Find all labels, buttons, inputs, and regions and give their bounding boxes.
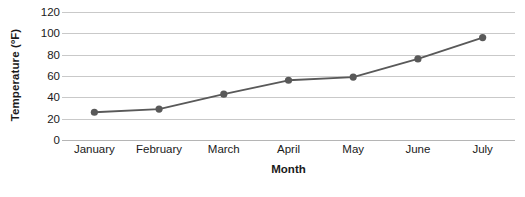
y-axis-tick-label: 20 (28, 113, 60, 125)
x-axis-tick-label: March (208, 143, 240, 155)
y-axis-title-text: Temperature (ºF) (9, 29, 21, 122)
y-axis-tick-label: 100 (28, 27, 60, 39)
data-point-marker (220, 91, 227, 98)
y-axis-tick-label: 80 (28, 49, 60, 61)
x-axis-tick-label: May (342, 143, 364, 155)
data-series (62, 12, 515, 140)
plot-area (62, 12, 515, 140)
x-axis-tick-label: July (472, 143, 492, 155)
x-axis-title: Month (62, 163, 515, 175)
y-axis-tick-label: 60 (28, 70, 60, 82)
y-axis-tick-labels: 020406080100120 (28, 0, 60, 150)
line-chart: Temperature (ºF) 020406080100120 January… (0, 0, 525, 197)
data-point-marker (414, 55, 421, 62)
x-axis-tick-labels: JanuaryFebruaryMarchAprilMayJuneJuly (62, 143, 515, 161)
y-axis-tick-label: 120 (28, 6, 60, 18)
x-axis-tick-label: February (136, 143, 182, 155)
x-axis-tick-label: June (405, 143, 430, 155)
series-line (94, 38, 482, 113)
data-point-marker (350, 73, 357, 80)
data-point-marker (285, 77, 292, 84)
y-axis-tick-label: 0 (28, 134, 60, 146)
axis-baseline (62, 140, 515, 141)
y-axis-title: Temperature (ºF) (0, 0, 30, 150)
x-axis-tick-label: January (74, 143, 115, 155)
data-point-marker (91, 109, 98, 116)
data-point-marker (155, 105, 162, 112)
data-point-marker (479, 34, 486, 41)
x-axis-tick-label: April (277, 143, 300, 155)
y-axis-tick-label: 40 (28, 91, 60, 103)
